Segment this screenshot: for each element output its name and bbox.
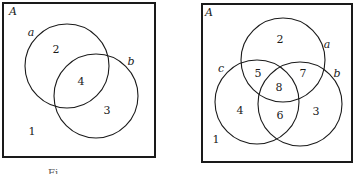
figure-caption-fragment: Fi [48, 167, 58, 174]
set-label-b: b [333, 67, 340, 80]
region-label: 1 [213, 133, 220, 146]
universe-label: A [204, 6, 213, 19]
region-label: 8 [276, 81, 283, 94]
set-label-a: a [324, 38, 331, 51]
set-label-a: a [28, 26, 35, 39]
region-label: 6 [277, 109, 284, 122]
region-label: 2 [53, 43, 60, 56]
venn-diagram-three-sets: A a b c 1 2 5 7 8 4 6 3 [202, 4, 352, 162]
region-label: 3 [104, 104, 111, 117]
region-label: 1 [29, 125, 36, 138]
region-label: 2 [277, 33, 284, 46]
set-label-c: c [218, 62, 224, 75]
region-label: 4 [78, 75, 85, 88]
venn-figure: A a b 1 2 4 3 A a b c 1 2 5 7 8 4 6 3 Fi [0, 0, 356, 174]
set-label-b: b [127, 55, 134, 68]
region-label: 3 [313, 105, 320, 118]
region-label: 4 [237, 104, 244, 117]
universe-label: A [8, 5, 17, 18]
venn-diagram-two-sets: A a b 1 2 4 3 [3, 3, 155, 157]
region-label: 7 [300, 67, 307, 80]
region-label: 5 [255, 67, 262, 80]
